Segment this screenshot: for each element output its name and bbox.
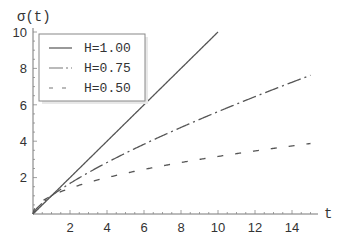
legend-label: H=0.50 [84,81,131,96]
legend-label: H=0.75 [84,61,131,76]
x-tick-label: 2 [66,220,73,235]
y-tick-label: 6 [20,98,27,113]
x-tick-label: 10 [211,220,225,235]
y-tick-label: 10 [13,25,27,40]
y-tick-label: 4 [20,134,27,149]
x-tick-label: 6 [140,220,147,235]
y-axis-label: σ(t) [17,9,51,25]
x-ticks [42,210,310,214]
y-tick-labels: 2 4 6 8 10 [13,25,27,185]
x-tick-label: 12 [248,220,262,235]
y-tick-label: 8 [20,61,27,76]
x-axis-label: t [324,206,332,222]
chart: σ(t) t 2 4 6 8 10 12 14 2 4 6 8 10 H=1.0… [0,0,349,243]
legend-label: H=1.00 [84,41,131,56]
series-h-0.50 [33,144,311,214]
y-tick-label: 2 [20,170,27,185]
y-ticks [33,32,37,205]
legend: H=1.00 H=0.75 H=0.50 [39,34,148,104]
x-tick-label: 14 [285,220,299,235]
x-tick-labels: 2 4 6 8 10 12 14 [66,220,299,235]
x-tick-label: 4 [103,220,110,235]
x-tick-label: 8 [177,220,184,235]
